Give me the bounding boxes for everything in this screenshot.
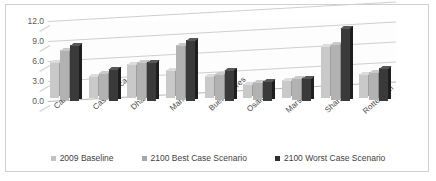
category-axis-labels: CalcuttaCasablancaDhakaManilaBuenosAires… — [48, 102, 408, 146]
y-axis-tick: 12.0 — [27, 17, 44, 26]
bar[interactable] — [282, 80, 291, 99]
bar[interactable] — [109, 69, 118, 101]
bar[interactable] — [166, 70, 175, 99]
bar[interactable] — [176, 45, 185, 100]
bar[interactable] — [225, 70, 234, 101]
bar[interactable] — [137, 62, 146, 99]
plot-area — [48, 21, 396, 101]
bar-face — [147, 62, 156, 101]
bar-face — [176, 45, 185, 100]
gridline — [48, 2, 396, 22]
bar-side — [234, 68, 237, 99]
bar-side — [79, 43, 82, 99]
legend-label: 2100 Worst Case Scenario — [284, 153, 385, 163]
bar-face — [253, 82, 262, 99]
legend-label: 2100 Best Case Scenario — [151, 153, 247, 163]
bar-face — [109, 69, 118, 101]
bar-face — [99, 73, 108, 100]
bars-container — [48, 21, 396, 101]
bar-group — [319, 21, 358, 101]
bar-group — [241, 21, 280, 101]
legend-item[interactable]: 2009 Baseline — [51, 153, 114, 163]
chart-legend: 2009 Baseline2100 Best Case Scenario2100… — [6, 149, 430, 167]
bar-face — [341, 28, 350, 101]
bar[interactable] — [369, 72, 378, 100]
legend-item[interactable]: 2100 Best Case Scenario — [142, 153, 247, 163]
bar-face — [60, 50, 69, 99]
bar[interactable] — [50, 62, 59, 99]
y-axis-tick: 9.0 — [32, 37, 44, 46]
bar-face — [137, 62, 146, 99]
bar-side — [311, 76, 314, 99]
bar-group — [203, 21, 242, 101]
y-axis-tick: 6.0 — [32, 57, 44, 66]
bar-side — [388, 66, 391, 99]
bar[interactable] — [147, 62, 156, 101]
bar-group — [164, 21, 203, 101]
legend-item[interactable]: 2100 Worst Case Scenario — [275, 153, 385, 163]
legend-label: 2009 Baseline — [60, 153, 114, 163]
bar-face — [359, 74, 368, 98]
bar[interactable] — [379, 68, 388, 101]
legend-swatch-icon — [51, 156, 56, 161]
bar[interactable] — [331, 44, 340, 100]
bar-side — [350, 26, 353, 99]
bar[interactable] — [243, 84, 252, 99]
bar-face — [331, 44, 340, 100]
bar[interactable] — [263, 81, 272, 101]
bar-face — [225, 70, 234, 101]
bar[interactable] — [321, 46, 330, 99]
bar-face — [379, 68, 388, 101]
bar[interactable] — [186, 40, 195, 101]
bar-face — [215, 74, 224, 99]
bar[interactable] — [253, 82, 262, 99]
bar-face — [205, 76, 214, 99]
bar[interactable] — [70, 45, 79, 101]
bar[interactable] — [302, 78, 311, 101]
bar[interactable] — [89, 76, 98, 98]
legend-swatch-icon — [142, 156, 147, 161]
bar-face — [70, 45, 79, 101]
bar-side — [195, 38, 198, 99]
bar-face — [292, 78, 301, 99]
bar[interactable] — [99, 73, 108, 100]
bar-face — [50, 62, 59, 99]
bar-side — [272, 79, 275, 99]
legend-swatch-icon — [275, 156, 280, 161]
bar-face — [302, 78, 311, 101]
bar[interactable] — [127, 64, 136, 99]
y-axis-tick: 0.0 — [32, 97, 44, 106]
bar-group — [357, 21, 396, 101]
bar[interactable] — [292, 78, 301, 99]
bar-face — [321, 46, 330, 99]
bar[interactable] — [359, 74, 368, 98]
bar[interactable] — [205, 76, 214, 99]
bar[interactable] — [341, 28, 350, 101]
bar[interactable] — [60, 50, 69, 99]
bar-side — [156, 60, 159, 99]
bar-face — [282, 80, 291, 99]
bar-group — [125, 21, 164, 101]
bar-group — [48, 21, 87, 101]
bar-face — [89, 76, 98, 98]
chart-frame: 0.03.06.09.012.0 CalcuttaCasablancaDhaka… — [5, 4, 429, 172]
bar-group — [280, 21, 319, 101]
bar-face — [186, 40, 195, 101]
bar-face — [243, 84, 252, 99]
bar-side — [118, 67, 121, 99]
y-axis-tick: 3.0 — [32, 77, 44, 86]
bar-face — [127, 64, 136, 99]
bar-group — [87, 21, 126, 101]
bar-face — [166, 70, 175, 99]
bar[interactable] — [215, 74, 224, 99]
bar-face — [369, 72, 378, 100]
bar-face — [263, 81, 272, 101]
